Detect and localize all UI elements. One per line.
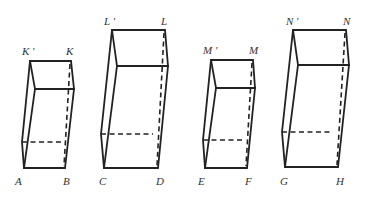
label-a: A <box>15 176 22 187</box>
label-g: G <box>280 176 288 187</box>
prism-k <box>22 61 74 168</box>
label-l-prime: L ' <box>104 16 115 27</box>
label-h: H <box>336 176 344 187</box>
prisms-diagram <box>0 0 368 199</box>
label-d: D <box>156 176 164 187</box>
label-m-prime: M ' <box>203 45 217 56</box>
label-n: N <box>343 16 350 27</box>
label-k-prime: K ' <box>22 46 34 57</box>
label-b: B <box>63 176 70 187</box>
label-n-prime: N ' <box>286 16 298 27</box>
prism-l <box>101 30 168 168</box>
label-l: L <box>161 16 167 27</box>
prism-n <box>282 30 349 167</box>
prism-m <box>203 60 255 168</box>
label-c: C <box>99 176 106 187</box>
label-e: E <box>198 176 205 187</box>
label-m: M <box>249 45 258 56</box>
label-k: K <box>66 46 73 57</box>
label-f: F <box>245 176 252 187</box>
